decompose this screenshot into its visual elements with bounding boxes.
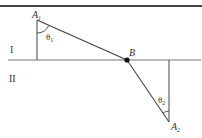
point-b: [124, 57, 129, 62]
label-region-i: I: [10, 44, 13, 55]
label-b: B: [129, 47, 135, 58]
angle-arc-theta2: [163, 111, 169, 113]
label-theta2: θ2: [158, 95, 165, 106]
label-region-ii: II: [9, 73, 16, 84]
label-a2: A2: [170, 121, 180, 133]
ray-b-a2: [127, 60, 169, 122]
refraction-diagram: A1 B A2 θ1 θ2 I II: [0, 0, 202, 138]
label-a1: A1: [31, 9, 41, 21]
label-theta1: θ1: [46, 32, 53, 43]
